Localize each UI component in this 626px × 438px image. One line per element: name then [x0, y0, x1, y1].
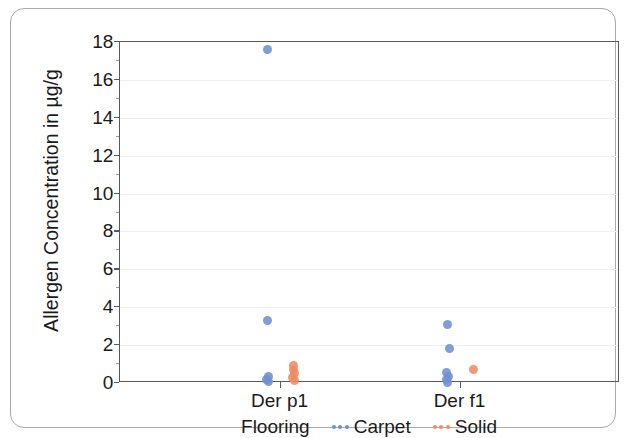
y-axis-title: Allergen Concentration in µg/g — [40, 31, 63, 371]
x-axis-tick-mark — [280, 382, 281, 388]
scatter-chart: Allergen Concentration in µg/g 024681012… — [11, 9, 626, 434]
data-point — [290, 376, 299, 385]
y-axis-tick-label: 14 — [77, 107, 113, 126]
legend-marker-icon — [332, 425, 349, 429]
y-axis-tick-label: 2 — [77, 335, 113, 354]
chart-legend: Flooring CarpetSolid — [119, 416, 619, 438]
plot-area — [119, 41, 619, 382]
legend-marker-icon — [433, 425, 450, 429]
y-axis-tick-labels: 024681012141618 — [73, 9, 113, 434]
gridline — [120, 194, 618, 195]
data-point — [263, 316, 272, 325]
gridline — [120, 156, 618, 157]
y-axis-tick-label: 18 — [77, 32, 113, 51]
gridline — [120, 307, 618, 308]
gridline — [120, 345, 618, 346]
y-axis-tick-mark — [114, 382, 119, 383]
x-axis-tick-mark — [460, 382, 461, 388]
y-axis-tick-label: 0 — [77, 373, 113, 392]
y-axis-tick-label: 6 — [77, 259, 113, 278]
data-point — [443, 378, 452, 387]
figure-card: Allergen Concentration in µg/g 024681012… — [10, 8, 616, 428]
y-axis-tick-label: 4 — [77, 297, 113, 316]
x-axis-tick-label: Der f1 — [380, 390, 540, 412]
y-axis-tick-label: 16 — [77, 69, 113, 88]
legend-label: Solid — [455, 416, 497, 438]
data-point — [469, 365, 478, 374]
legend-entry-carpet[interactable]: Carpet — [332, 416, 411, 438]
legend-entry-solid[interactable]: Solid — [433, 416, 497, 438]
x-axis-tick-label: Der p1 — [200, 390, 360, 412]
gridline — [120, 80, 618, 81]
y-axis-tick-label: 8 — [77, 221, 113, 240]
data-point — [443, 320, 452, 329]
gridline — [120, 269, 618, 270]
gridline — [120, 118, 618, 119]
y-axis-tick-label: 10 — [77, 183, 113, 202]
data-point — [263, 45, 272, 54]
data-point — [445, 344, 454, 353]
legend-label: Carpet — [354, 416, 411, 438]
legend-title: Flooring — [241, 416, 310, 438]
gridline — [120, 231, 618, 232]
data-point — [264, 377, 273, 386]
y-axis-tick-label: 12 — [77, 145, 113, 164]
